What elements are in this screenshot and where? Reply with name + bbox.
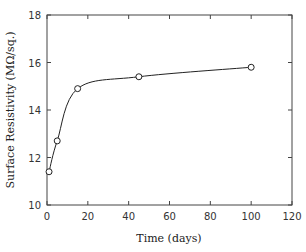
- y-axis-ticks: 1012141618: [28, 10, 292, 211]
- x-tick-label: 40: [122, 211, 135, 222]
- y-tick-label: 12: [28, 153, 41, 164]
- data-point: [54, 138, 60, 144]
- y-tick-label: 18: [28, 10, 41, 21]
- data-point: [136, 74, 142, 80]
- y-tick-label: 16: [28, 58, 41, 69]
- plot-frame: [47, 15, 292, 205]
- y-tick-label: 10: [28, 200, 41, 211]
- x-tick-label: 80: [204, 211, 217, 222]
- x-tick-label: 100: [242, 211, 261, 222]
- x-axis-label: Time (days): [136, 232, 201, 245]
- chart: 020406080100120 1012141618 Time (days) S…: [0, 0, 306, 252]
- data-point: [75, 86, 81, 92]
- x-tick-label: 20: [81, 211, 94, 222]
- data-point: [46, 169, 52, 175]
- data-point: [248, 64, 254, 70]
- data-markers: [46, 64, 254, 175]
- y-axis-label: Surface Resistivity (MΩ/sq.): [4, 32, 17, 189]
- data-line: [49, 67, 251, 172]
- y-tick-label: 14: [28, 105, 41, 116]
- x-axis-ticks: 020406080100120: [44, 15, 302, 222]
- x-tick-label: 60: [163, 211, 176, 222]
- x-tick-label: 0: [44, 211, 50, 222]
- x-tick-label: 120: [282, 211, 301, 222]
